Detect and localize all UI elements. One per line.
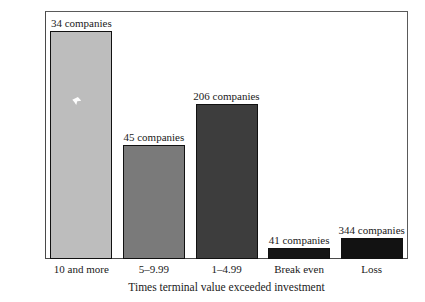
x-axis-tick-label: Loss [322,263,422,276]
bar-chart-figure: 0100200300400500 34 companies45 companie… [0,0,425,302]
bar-value-label: 45 companies [99,131,209,143]
bar-value-label: 344 companies [317,224,425,236]
bar [268,248,330,259]
bar [341,238,403,259]
y-axis: 0100200300400500 [0,0,45,302]
bar-series: 34 companies45 companies206 companies41 … [45,11,408,259]
bar [50,31,112,259]
x-axis: Times terminal value exceeded investment… [45,260,408,302]
bar-value-label: 34 companies [26,17,136,29]
bar-value-label: 206 companies [172,90,282,102]
bar [123,145,185,259]
x-axis-title: Times terminal value exceeded investment [45,280,408,294]
